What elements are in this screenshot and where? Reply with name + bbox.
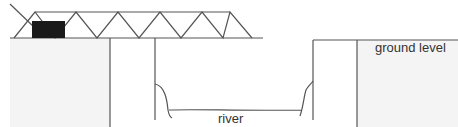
truck-load bbox=[32, 21, 65, 38]
left-bank-ground bbox=[10, 38, 110, 127]
river-label: river bbox=[218, 111, 243, 126]
bridge-diagram bbox=[0, 0, 458, 127]
ground-level-label: ground level bbox=[375, 40, 446, 55]
